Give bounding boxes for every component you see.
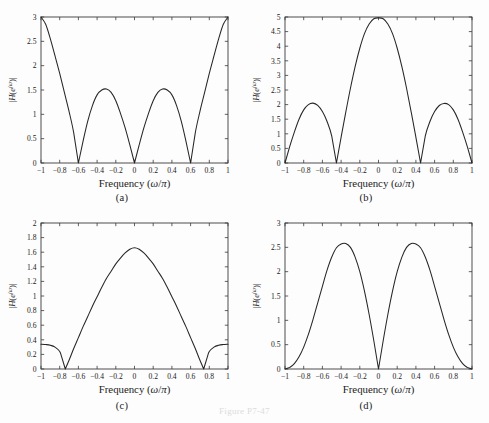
svg-text:1: 1 bbox=[226, 372, 230, 381]
svg-text:1: 1 bbox=[470, 166, 474, 175]
svg-text:0: 0 bbox=[377, 372, 381, 381]
svg-text:0.2: 0.2 bbox=[27, 350, 37, 359]
svg-text:2.5: 2.5 bbox=[27, 37, 37, 46]
svg-text:1: 1 bbox=[226, 166, 230, 175]
svg-text:0.6: 0.6 bbox=[27, 321, 37, 330]
svg-text:0: 0 bbox=[377, 166, 381, 175]
svg-text:Frequency (ω/π): Frequency (ω/π) bbox=[343, 177, 415, 190]
panel-b: −1−0.8−0.6−0.4−0.200.20.40.60.8100.511.5… bbox=[244, 0, 488, 211]
svg-text:1: 1 bbox=[277, 130, 281, 139]
svg-text:1: 1 bbox=[33, 292, 37, 301]
svg-text:0.2: 0.2 bbox=[148, 372, 158, 381]
svg-text:1.5: 1.5 bbox=[27, 86, 37, 95]
svg-text:0.4: 0.4 bbox=[27, 336, 37, 345]
svg-text:0.2: 0.2 bbox=[392, 166, 402, 175]
svg-text:0.4: 0.4 bbox=[167, 372, 177, 381]
panel-caption-a: (a) bbox=[0, 192, 244, 203]
svg-text:−0.6: −0.6 bbox=[316, 372, 330, 381]
svg-text:0: 0 bbox=[133, 372, 137, 381]
svg-text:Frequency (ω/π): Frequency (ω/π) bbox=[343, 383, 415, 396]
svg-text:0.8: 0.8 bbox=[205, 166, 215, 175]
panel-a: −1−0.8−0.6−0.4−0.200.20.40.60.8100.511.5… bbox=[0, 0, 244, 211]
svg-text:0.8: 0.8 bbox=[449, 372, 459, 381]
svg-text:−0.6: −0.6 bbox=[72, 166, 86, 175]
svg-text:0.4: 0.4 bbox=[411, 166, 421, 175]
panel-caption-b: (b) bbox=[244, 192, 488, 203]
svg-text:0.5: 0.5 bbox=[27, 134, 37, 143]
svg-text:−1: −1 bbox=[281, 372, 289, 381]
svg-text:−0.4: −0.4 bbox=[334, 372, 348, 381]
svg-text:1.6: 1.6 bbox=[27, 248, 37, 257]
svg-text:4: 4 bbox=[277, 42, 281, 51]
svg-text:|H(ejω)|: |H(ejω)| bbox=[7, 77, 17, 102]
svg-text:Frequency (ω/π): Frequency (ω/π) bbox=[99, 177, 171, 190]
svg-text:0.6: 0.6 bbox=[186, 372, 196, 381]
svg-text:3: 3 bbox=[33, 13, 37, 22]
svg-text:1.2: 1.2 bbox=[27, 277, 37, 286]
svg-text:−0.8: −0.8 bbox=[297, 166, 311, 175]
svg-text:1.5: 1.5 bbox=[271, 115, 281, 124]
svg-text:Frequency (ω/π): Frequency (ω/π) bbox=[99, 383, 171, 396]
svg-text:2: 2 bbox=[277, 267, 281, 276]
svg-text:2.5: 2.5 bbox=[271, 243, 281, 252]
svg-text:0: 0 bbox=[33, 365, 37, 374]
svg-text:−1: −1 bbox=[37, 372, 45, 381]
svg-text:0.2: 0.2 bbox=[148, 166, 158, 175]
svg-text:0.8: 0.8 bbox=[205, 372, 215, 381]
svg-text:−0.4: −0.4 bbox=[90, 372, 104, 381]
svg-text:|H(ejω)|: |H(ejω)| bbox=[251, 77, 261, 102]
svg-text:0.8: 0.8 bbox=[449, 166, 459, 175]
plot-d: −1−0.8−0.6−0.4−0.200.20.40.60.8100.511.5… bbox=[244, 206, 488, 417]
svg-text:2: 2 bbox=[33, 61, 37, 70]
svg-text:4.5: 4.5 bbox=[271, 27, 281, 36]
svg-text:2: 2 bbox=[277, 100, 281, 109]
svg-text:−0.6: −0.6 bbox=[316, 166, 330, 175]
svg-text:0.6: 0.6 bbox=[186, 166, 196, 175]
svg-text:0.4: 0.4 bbox=[167, 166, 177, 175]
plot-c: −1−0.8−0.6−0.4−0.200.20.40.60.8100.20.40… bbox=[0, 206, 244, 417]
panel-d: −1−0.8−0.6−0.4−0.200.20.40.60.8100.511.5… bbox=[244, 206, 488, 417]
svg-text:0: 0 bbox=[133, 166, 137, 175]
figure-caption: Figure P7-47 bbox=[0, 406, 489, 416]
svg-text:1.4: 1.4 bbox=[27, 263, 37, 272]
svg-text:0.8: 0.8 bbox=[27, 306, 37, 315]
svg-text:1: 1 bbox=[33, 110, 37, 119]
svg-text:0.6: 0.6 bbox=[430, 166, 440, 175]
svg-text:0: 0 bbox=[33, 159, 37, 168]
svg-text:2.5: 2.5 bbox=[271, 86, 281, 95]
svg-text:0: 0 bbox=[277, 159, 281, 168]
svg-text:0.5: 0.5 bbox=[271, 144, 281, 153]
svg-text:0: 0 bbox=[277, 365, 281, 374]
svg-text:3: 3 bbox=[277, 219, 281, 228]
svg-text:1.8: 1.8 bbox=[27, 233, 37, 242]
svg-text:1: 1 bbox=[277, 316, 281, 325]
svg-text:3.5: 3.5 bbox=[271, 57, 281, 66]
svg-text:0.2: 0.2 bbox=[392, 372, 402, 381]
svg-text:5: 5 bbox=[277, 13, 281, 22]
svg-text:−0.6: −0.6 bbox=[72, 372, 86, 381]
plot-b: −1−0.8−0.6−0.4−0.200.20.40.60.8100.511.5… bbox=[244, 0, 488, 211]
panel-c: −1−0.8−0.6−0.4−0.200.20.40.60.8100.20.40… bbox=[0, 206, 244, 417]
plot-a: −1−0.8−0.6−0.4−0.200.20.40.60.8100.511.5… bbox=[0, 0, 244, 211]
svg-text:0.5: 0.5 bbox=[271, 340, 281, 349]
svg-text:−0.4: −0.4 bbox=[90, 166, 104, 175]
svg-text:−0.2: −0.2 bbox=[353, 372, 367, 381]
svg-text:−0.8: −0.8 bbox=[297, 372, 311, 381]
svg-text:1.5: 1.5 bbox=[271, 292, 281, 301]
svg-text:−0.8: −0.8 bbox=[53, 166, 67, 175]
svg-text:−0.2: −0.2 bbox=[109, 372, 123, 381]
svg-text:2: 2 bbox=[33, 219, 37, 228]
svg-text:−0.2: −0.2 bbox=[353, 166, 367, 175]
svg-text:3: 3 bbox=[277, 71, 281, 80]
svg-text:−1: −1 bbox=[37, 166, 45, 175]
svg-text:−0.4: −0.4 bbox=[334, 166, 348, 175]
figure-container: −1−0.8−0.6−0.4−0.200.20.40.60.8100.511.5… bbox=[0, 0, 489, 423]
svg-text:−0.8: −0.8 bbox=[53, 372, 67, 381]
svg-text:1: 1 bbox=[470, 372, 474, 381]
svg-text:−0.2: −0.2 bbox=[109, 166, 123, 175]
svg-text:|H(ejω)|: |H(ejω)| bbox=[7, 283, 17, 308]
svg-text:−1: −1 bbox=[281, 166, 289, 175]
svg-text:0.4: 0.4 bbox=[411, 372, 421, 381]
svg-text:|H(ejω)|: |H(ejω)| bbox=[251, 283, 261, 308]
svg-text:0.6: 0.6 bbox=[430, 372, 440, 381]
